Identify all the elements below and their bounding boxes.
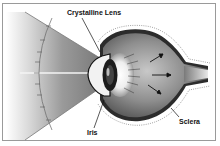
light-cone: [6, 12, 100, 140]
label-sclera: Sclera: [179, 118, 200, 125]
label-crystalline-lens: Crystalline Lens: [67, 9, 121, 16]
label-iris: Iris: [87, 129, 98, 136]
